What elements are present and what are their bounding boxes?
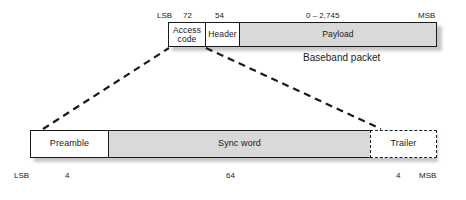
packet-lsb-label: LSB xyxy=(157,11,172,20)
access-code-preamble-bits: 4 xyxy=(65,171,69,180)
packet-access-code-bits: 72 xyxy=(183,11,192,20)
packet-segment-payload[interactable]: Payload xyxy=(239,22,437,47)
packet-header-bits: 54 xyxy=(215,11,224,20)
access-code-segment-preamble[interactable]: Preamble xyxy=(30,130,109,158)
packet-segment-access-code-label: Access code xyxy=(169,26,205,44)
access-code-trailer-bits: 4 xyxy=(396,171,400,180)
access-code-sync-word-bits: 64 xyxy=(226,171,235,180)
packet-segment-access-code[interactable]: Access code xyxy=(168,22,206,47)
baseband-packet-bar: Access code Header Payload xyxy=(168,22,437,47)
figure-caption: Baseband packet xyxy=(303,52,380,63)
access-code-lsb-label: LSB xyxy=(14,171,29,180)
access-code-segment-trailer-label: Trailer xyxy=(391,139,417,148)
packet-segment-payload-label: Payload xyxy=(322,30,353,39)
packet-payload-bits: 0 – 2,745 xyxy=(306,11,339,20)
access-code-segment-trailer[interactable]: Trailer xyxy=(370,130,437,158)
access-code-segment-preamble-label: Preamble xyxy=(50,139,89,148)
connector-left xyxy=(43,48,169,129)
packet-segment-header-label: Header xyxy=(208,30,236,39)
packet-segment-header[interactable]: Header xyxy=(205,22,240,47)
access-code-msb-label: MSB xyxy=(419,171,436,180)
figure-baseband-packet-structure: LSB 72 54 0 – 2,745 MSB Access code Head… xyxy=(0,0,466,200)
access-code-segment-sync-word-label: Sync word xyxy=(218,139,261,148)
packet-msb-label: MSB xyxy=(418,11,435,20)
access-code-segment-sync-word[interactable]: Sync word xyxy=(108,130,371,158)
access-code-bar: Preamble Sync word Trailer xyxy=(30,130,437,158)
